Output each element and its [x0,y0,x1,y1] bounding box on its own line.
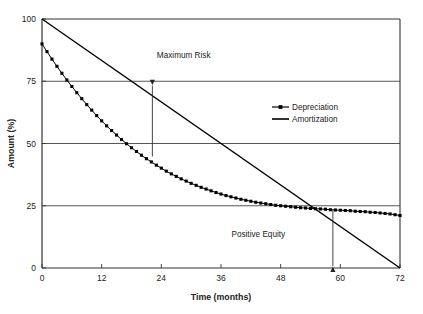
y-tick-label-25: 25 [27,201,37,211]
data-point-depreciation [379,211,382,214]
data-point-depreciation [90,109,93,112]
y-tick-label-50: 50 [27,139,37,149]
data-point-depreciation [210,189,213,192]
data-point-depreciation [165,170,168,173]
data-point-depreciation [284,205,287,208]
data-point-depreciation [190,182,193,185]
data-point-depreciation [314,207,317,210]
data-point-depreciation [150,160,153,163]
chart-background [0,0,423,314]
data-point-depreciation [364,210,367,213]
data-point-depreciation [259,201,262,204]
data-point-depreciation [269,203,272,206]
data-point-depreciation [369,211,372,214]
x-tick-label-60: 60 [336,273,346,283]
data-point-depreciation [234,196,237,199]
data-point-depreciation [214,191,217,194]
data-point-depreciation [319,207,322,210]
data-point-depreciation [279,204,282,207]
data-point-depreciation [264,202,267,205]
data-point-depreciation [329,208,332,211]
data-point-depreciation [70,85,73,88]
data-point-depreciation [219,192,222,195]
data-point-depreciation [334,208,337,211]
data-point-depreciation [40,42,43,45]
data-point-depreciation [224,194,227,197]
legend-marker-depreciation [279,105,283,109]
data-point-depreciation [80,97,83,100]
data-point-depreciation [50,58,53,61]
chart-svg: 0122436486072 0255075100 Maximum RiskPos… [0,0,423,314]
data-point-depreciation [160,167,163,170]
y-axis-title: Amount (%) [6,119,16,168]
data-point-depreciation [324,208,327,211]
data-point-depreciation [359,210,362,213]
x-tick-label-12: 12 [97,273,107,283]
data-point-depreciation [55,65,58,68]
data-point-depreciation [45,50,48,53]
data-point-depreciation [100,119,103,122]
annotation-label-positive-equity: Positive Equity [231,230,286,239]
data-point-depreciation [185,180,188,183]
data-point-depreciation [105,124,108,127]
data-point-depreciation [65,78,68,81]
x-axis-title: Time (months) [191,292,252,302]
data-point-depreciation [239,198,242,201]
data-point-depreciation [339,209,342,212]
data-point-depreciation [205,188,208,191]
data-point-depreciation [299,206,302,209]
data-point-depreciation [309,207,312,210]
data-point-depreciation [110,129,113,132]
annotation-label-maximum-risk: Maximum Risk [157,51,212,60]
data-point-depreciation [85,103,88,106]
data-point-depreciation [75,91,78,94]
y-tick-label-75: 75 [27,76,37,86]
data-point-depreciation [170,172,173,175]
data-point-depreciation [374,211,377,214]
data-point-depreciation [135,150,138,153]
data-point-depreciation [125,142,128,145]
x-tick-label-72: 72 [395,273,405,283]
data-point-depreciation [175,175,178,178]
data-point-depreciation [200,186,203,189]
legend-label-depreciation: Depreciation [292,103,338,112]
data-point-depreciation [294,206,297,209]
data-point-depreciation [289,205,292,208]
x-tick-label-36: 36 [216,273,226,283]
data-point-depreciation [244,199,247,202]
data-point-depreciation [229,195,232,198]
data-point-depreciation [95,114,98,117]
data-point-depreciation [130,146,133,149]
data-point-depreciation [393,213,396,216]
data-point-depreciation [249,200,252,203]
data-point-depreciation [384,212,387,215]
data-point-depreciation [195,184,198,187]
data-point-depreciation [304,206,307,209]
data-point-depreciation [140,154,143,157]
data-point-depreciation [274,204,277,207]
data-point-depreciation [180,177,183,180]
x-tick-label-0: 0 [40,273,45,283]
data-point-depreciation [115,133,118,136]
data-point-depreciation [398,214,401,217]
y-tick-label-0: 0 [31,263,36,273]
data-point-depreciation [354,210,357,213]
x-tick-label-48: 48 [276,273,286,283]
data-point-depreciation [120,138,123,141]
chart-container: 0122436486072 0255075100 Maximum RiskPos… [0,0,423,314]
data-point-depreciation [344,209,347,212]
data-point-depreciation [145,157,148,160]
x-tick-label-24: 24 [157,273,167,283]
data-point-depreciation [349,209,352,212]
y-tick-label-100: 100 [22,14,36,24]
data-point-depreciation [155,164,158,167]
data-point-depreciation [389,212,392,215]
legend-label-amortization: Amortization [292,115,338,124]
data-point-depreciation [60,72,63,75]
data-point-depreciation [254,201,257,204]
